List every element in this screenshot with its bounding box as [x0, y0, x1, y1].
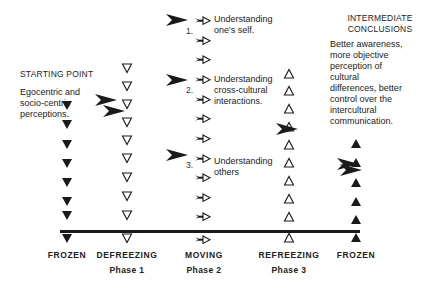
defreezing-column	[123, 64, 132, 243]
stage-label-moving: MOVING	[159, 250, 249, 260]
stage-label-frozen-end: FROZEN	[311, 250, 401, 260]
frozen-left-column	[62, 101, 72, 243]
frozen-right-column	[351, 139, 361, 242]
phase-label-3: Phase 3	[244, 265, 334, 275]
refreezing-column	[285, 70, 294, 243]
progress-arrows	[95, 14, 362, 176]
phase-label-2: Phase 2	[159, 265, 249, 275]
moving-column	[195, 17, 210, 243]
symbol-layer	[0, 0, 431, 288]
